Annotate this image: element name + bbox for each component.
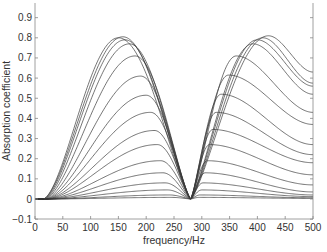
y-tick-label: 0.5: [18, 93, 32, 104]
x-tick-label: 300: [193, 222, 210, 233]
x-tick-label: 250: [166, 222, 183, 233]
y-tick-label: −0.1: [12, 214, 32, 225]
y-tick-label: 0.9: [18, 12, 32, 23]
y-tick-label: 0.4: [18, 113, 32, 124]
y-axis-label: Absorption coefficient: [0, 61, 12, 161]
curve-group: [35, 36, 313, 199]
x-tick-label: 500: [305, 222, 322, 233]
y-tick-label: 0.8: [18, 32, 32, 43]
x-axis-label: frequency/Hz: [143, 234, 205, 246]
absorption-curve: [35, 36, 313, 199]
y-tick-label: 0: [26, 194, 32, 205]
y-tick-label: 0.2: [18, 153, 32, 164]
absorption-curve: [35, 38, 313, 199]
absorption-chart: −0.100.10.20.30.40.50.60.70.80.9 0501001…: [0, 0, 327, 252]
y-tick-label: 0.1: [18, 173, 32, 184]
x-tick-label: 0: [32, 222, 38, 233]
x-tick-label: 100: [82, 222, 99, 233]
x-tick-label: 400: [249, 222, 266, 233]
x-tick-label: 450: [277, 222, 294, 233]
x-tick-label: 200: [138, 222, 155, 233]
x-ticks: 050100150200250300350400450500: [32, 216, 322, 233]
x-tick-label: 350: [221, 222, 238, 233]
x-tick-label: 50: [57, 222, 69, 233]
x-tick-label: 150: [110, 222, 127, 233]
y-tick-label: 0.7: [18, 52, 32, 63]
y-tick-label: 0.6: [18, 73, 32, 84]
y-tick-label: 0.3: [18, 133, 32, 144]
absorption-curve: [35, 56, 313, 199]
